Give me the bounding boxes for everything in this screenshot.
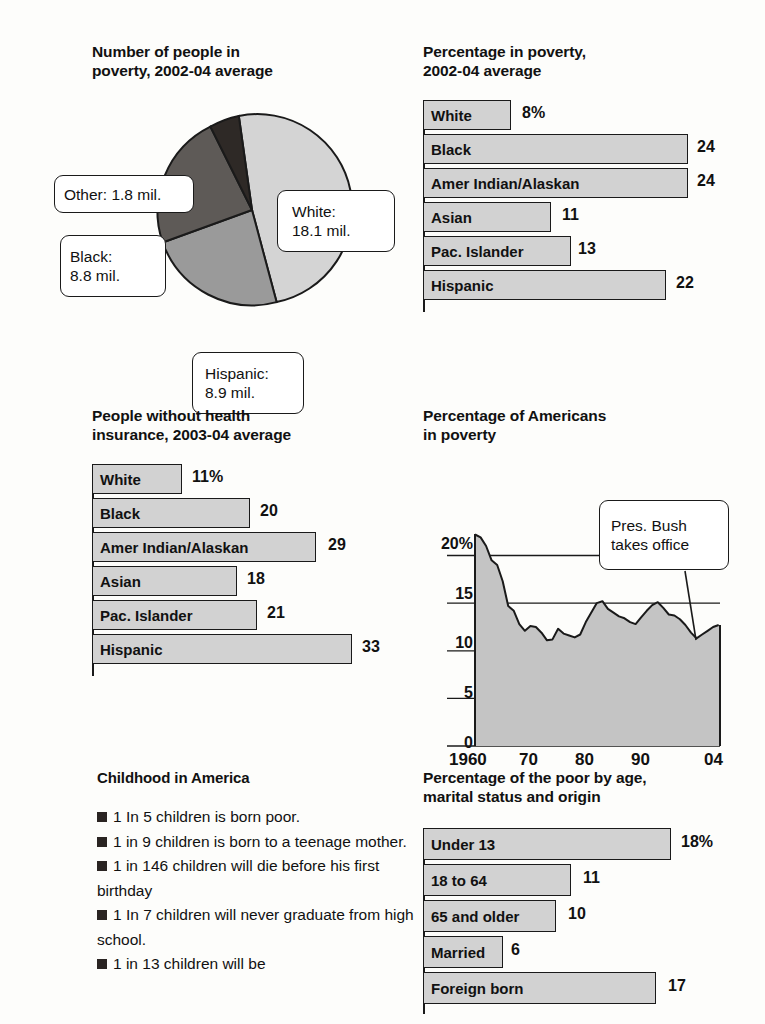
panel-people-in-poverty: Number of people in poverty, 2002-04 ave… bbox=[92, 42, 402, 387]
bullet-square-icon bbox=[97, 837, 107, 847]
table-row[interactable]: Pac. Islander 21 bbox=[92, 600, 422, 630]
bar-value: 24 bbox=[697, 138, 715, 156]
x-axis-tick-1960: 1960 bbox=[449, 750, 487, 770]
bar-label: Black bbox=[424, 141, 471, 158]
list-item: 1 in 146 children will die before his fi… bbox=[97, 854, 417, 903]
x-axis-tick-80: 80 bbox=[575, 750, 594, 770]
table-row[interactable]: Amer Indian/Alaskan 24 bbox=[423, 168, 753, 198]
bar-value: 11 bbox=[583, 869, 600, 887]
table-row[interactable]: Amer Indian/Alaskan 29 bbox=[92, 532, 422, 562]
bar-value: 24 bbox=[697, 172, 715, 190]
bar-value: 20 bbox=[260, 502, 278, 520]
bullet-square-icon bbox=[97, 959, 107, 969]
bar-value: 29 bbox=[328, 536, 346, 554]
bar-label: 65 and older bbox=[424, 908, 519, 925]
bar-value: 6 bbox=[511, 941, 520, 959]
bar-label: Pac. Islander bbox=[93, 607, 193, 624]
table-row[interactable]: Asian 11 bbox=[423, 202, 753, 232]
table-row[interactable]: White 8% bbox=[423, 100, 753, 130]
bar-label: Asian bbox=[93, 573, 141, 590]
x-axis-tick-70: 70 bbox=[519, 750, 538, 770]
pie-callout-hispanic[interactable]: Hispanic: 8.9 mil. bbox=[192, 352, 304, 414]
bar-label: White bbox=[424, 107, 472, 124]
bar-label: Amer Indian/Alaskan bbox=[424, 175, 579, 192]
bush-takes-office-annotation[interactable]: Pres. Bush takes office bbox=[599, 500, 729, 570]
by-group-bar-chart: Under 13 18% 18 to 64 11 65 and older 10… bbox=[423, 828, 753, 1018]
list-item-text: 1 In 7 children will never graduate from… bbox=[97, 906, 414, 948]
list-item: 1 In 7 children will never graduate from… bbox=[97, 903, 417, 952]
x-axis-tick-04: 04 bbox=[704, 750, 723, 770]
bar-label: Asian bbox=[424, 209, 472, 226]
list-item: 1 In 5 children is born poor. bbox=[97, 805, 417, 830]
bullet-square-icon bbox=[97, 861, 107, 871]
pie-callout-white[interactable]: White: 18.1 mil. bbox=[277, 190, 395, 252]
bar-label: White bbox=[93, 471, 141, 488]
table-row[interactable]: 18 to 64 11 bbox=[423, 864, 753, 896]
trend-chart-title: Percentage of Americans in poverty bbox=[423, 406, 753, 444]
x-axis-tick-90: 90 bbox=[631, 750, 650, 770]
bar-label: Hispanic bbox=[424, 277, 494, 294]
table-row[interactable]: Black 20 bbox=[92, 498, 422, 528]
pie-callout-black[interactable]: Black: 8.8 mil. bbox=[60, 235, 166, 297]
list-item-text: 1 in 13 children will be bbox=[113, 955, 266, 972]
panel-percentage-americans-in-poverty: Percentage of Americans in poverty 20% 1… bbox=[423, 406, 753, 736]
bar-value: 11 bbox=[562, 206, 579, 224]
bar-value: 33 bbox=[362, 638, 380, 656]
panel-percentage-in-poverty: Percentage in poverty, 2002-04 average W… bbox=[423, 42, 753, 372]
bullet-square-icon bbox=[97, 812, 107, 822]
pie-chart: Other: 1.8 mil. Black: 8.8 mil. White: 1… bbox=[92, 80, 402, 370]
bar-label: Under 13 bbox=[424, 836, 495, 853]
bullet-square-icon bbox=[97, 910, 107, 920]
list-item-text: 1 in 146 children will die before his fi… bbox=[97, 857, 379, 899]
list-item-text: 1 In 5 children is born poor. bbox=[113, 808, 300, 825]
bar-label: Black bbox=[93, 505, 140, 522]
by-group-title: Percentage of the poor by age, marital s… bbox=[423, 768, 753, 806]
list-item: 1 in 13 children will be bbox=[97, 952, 417, 977]
bar-label: Foreign born bbox=[424, 980, 524, 997]
table-row[interactable]: White 11% bbox=[92, 464, 422, 494]
bar-label: Pac. Islander bbox=[424, 243, 524, 260]
bar-value: 8% bbox=[522, 104, 545, 122]
bar-label: Married bbox=[424, 944, 485, 961]
uninsured-bar-chart: White 11% Black 20 Amer Indian/Alaskan 2… bbox=[92, 464, 422, 682]
bar-value: 22 bbox=[676, 274, 694, 292]
bar-value: 13 bbox=[578, 240, 596, 258]
table-row[interactable]: 65 and older 10 bbox=[423, 900, 753, 932]
table-row[interactable]: Hispanic 22 bbox=[423, 270, 753, 300]
bar-label: Amer Indian/Alaskan bbox=[93, 539, 248, 556]
table-row[interactable]: Married 6 bbox=[423, 936, 753, 968]
bar-value: 10 bbox=[568, 905, 586, 923]
table-row[interactable]: Black 24 bbox=[423, 134, 753, 164]
table-row[interactable]: Pac. Islander 13 bbox=[423, 236, 753, 266]
poverty-pct-bar-chart: White 8% Black 24 Amer Indian/Alaskan 24… bbox=[423, 100, 753, 318]
bar-value: 18% bbox=[681, 833, 713, 851]
bar-label: 18 to 64 bbox=[424, 872, 487, 889]
bar-value: 21 bbox=[267, 604, 285, 622]
bar-value: 17 bbox=[668, 977, 686, 995]
table-row[interactable]: Hispanic 33 bbox=[92, 634, 422, 664]
list-item-text: 1 in 9 children is born to a teenage mot… bbox=[113, 833, 407, 850]
list-item: 1 in 9 children is born to a teenage mot… bbox=[97, 830, 417, 855]
table-row[interactable]: Under 13 18% bbox=[423, 828, 753, 860]
childhood-title: Childhood in America bbox=[97, 768, 417, 787]
bar-label: Hispanic bbox=[93, 641, 163, 658]
bar-value: 11% bbox=[192, 468, 223, 486]
childhood-bullet-list: 1 In 5 children is born poor. 1 in 9 chi… bbox=[97, 805, 417, 977]
pie-chart-title: Number of people in poverty, 2002-04 ave… bbox=[92, 42, 402, 80]
table-row[interactable]: Foreign born 17 bbox=[423, 972, 753, 1004]
panel-childhood-in-america: Childhood in America 1 In 5 children is … bbox=[97, 768, 417, 1024]
poverty-trend-chart: 20% 15 10 5 0 Pres. Bush takes office 1 bbox=[423, 456, 753, 721]
panel-people-without-health-insurance: People without health insurance, 2003-04… bbox=[92, 406, 422, 736]
table-row[interactable]: Asian 18 bbox=[92, 566, 422, 596]
panel-poor-by-age-marital-origin: Percentage of the poor by age, marital s… bbox=[423, 768, 753, 1024]
pie-callout-other[interactable]: Other: 1.8 mil. bbox=[54, 175, 194, 213]
bar-value: 18 bbox=[247, 570, 265, 588]
uninsured-title: People without health insurance, 2003-04… bbox=[92, 406, 422, 444]
poverty-pct-title: Percentage in poverty, 2002-04 average bbox=[423, 42, 753, 80]
